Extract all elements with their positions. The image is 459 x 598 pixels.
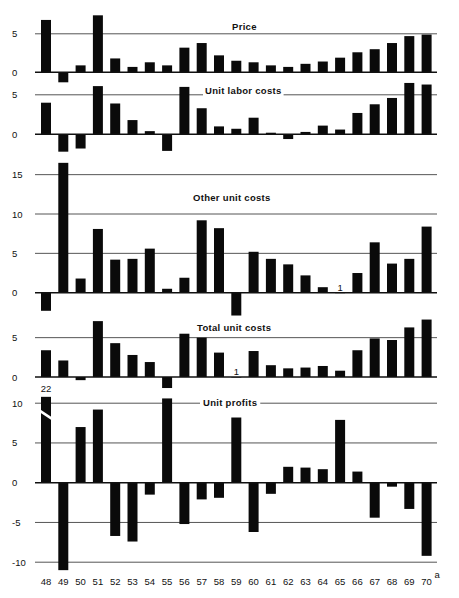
footnote-marker: a xyxy=(435,569,441,580)
unit-labor-costs-panel: 05Unit labor costs xyxy=(12,83,437,152)
other-unit-costs-panel: 0510151Other unit costs xyxy=(12,163,437,316)
x-tick-label: 70 xyxy=(421,576,432,587)
bar xyxy=(128,120,138,134)
bar xyxy=(301,368,311,377)
bar xyxy=(162,398,172,482)
bar xyxy=(404,83,414,134)
bar xyxy=(41,293,51,311)
bar xyxy=(58,72,68,82)
bar xyxy=(76,65,86,72)
bar xyxy=(41,397,51,483)
bar xyxy=(145,62,155,72)
bar xyxy=(422,35,432,73)
bar-annotation: 1 xyxy=(234,366,239,377)
y-tick-label: 0 xyxy=(12,372,17,383)
bar xyxy=(301,468,311,483)
x-tick-label: 52 xyxy=(110,576,121,587)
bar xyxy=(318,366,328,377)
bar xyxy=(266,65,276,72)
bar xyxy=(197,43,207,72)
bar xyxy=(145,483,155,495)
bar xyxy=(318,287,328,293)
bar xyxy=(162,134,172,151)
y-tick-label: 0 xyxy=(12,67,17,78)
bar xyxy=(179,48,189,73)
bar xyxy=(214,228,224,293)
bar xyxy=(197,483,207,500)
bar xyxy=(370,338,380,377)
bar xyxy=(93,86,103,134)
bar xyxy=(76,134,86,148)
bar xyxy=(352,472,362,483)
bar xyxy=(249,252,259,293)
bar xyxy=(179,87,189,134)
bar xyxy=(110,58,120,72)
x-tick-label: 51 xyxy=(93,576,104,587)
bar xyxy=(370,49,380,72)
bar xyxy=(352,52,362,72)
bar xyxy=(197,108,207,134)
bar xyxy=(318,126,328,135)
bar xyxy=(266,483,276,494)
bar xyxy=(128,67,138,72)
bar xyxy=(422,320,432,377)
bar xyxy=(179,334,189,377)
x-tick-label: 49 xyxy=(58,576,69,587)
y-tick-label: 5 xyxy=(12,437,17,448)
x-tick-label: 55 xyxy=(162,576,173,587)
bar xyxy=(370,104,380,134)
bar xyxy=(162,377,172,388)
x-tick-label: 59 xyxy=(231,576,242,587)
bar xyxy=(422,483,432,556)
bar xyxy=(58,483,68,570)
y-tick-label: -10 xyxy=(12,557,26,568)
bar xyxy=(266,365,276,377)
bar xyxy=(249,118,259,135)
bar xyxy=(110,343,120,377)
y-tick-label: 0 xyxy=(12,287,17,298)
x-tick-label: 50 xyxy=(75,576,86,587)
bar xyxy=(249,483,259,532)
bar xyxy=(404,327,414,377)
x-tick-label: 48 xyxy=(41,576,52,587)
bar-annotation: 22 xyxy=(41,383,52,394)
bar xyxy=(110,260,120,293)
x-tick-label: 56 xyxy=(179,576,190,587)
bar xyxy=(283,467,293,483)
y-tick-label: 5 xyxy=(12,248,17,259)
x-tick-label: 58 xyxy=(214,576,225,587)
bar xyxy=(335,58,345,73)
bar xyxy=(128,355,138,377)
x-tick-label: 68 xyxy=(387,576,398,587)
bar xyxy=(301,64,311,72)
bar xyxy=(404,483,414,509)
bar xyxy=(231,61,241,73)
bar xyxy=(214,126,224,134)
bar xyxy=(266,259,276,293)
bar xyxy=(249,62,259,72)
bar xyxy=(404,36,414,72)
x-axis: 4849505152535455565758596061626364656667… xyxy=(41,569,441,587)
bar xyxy=(110,103,120,134)
panel-title: Unit profits xyxy=(203,397,257,408)
x-tick-label: 61 xyxy=(266,576,277,587)
y-tick-label: 0 xyxy=(12,129,17,140)
bar xyxy=(387,340,397,377)
bar xyxy=(301,275,311,292)
bar xyxy=(110,483,120,536)
panel-title: Unit labor costs xyxy=(205,85,282,96)
bar xyxy=(76,427,86,483)
unit-profits-panel: -10-5051022Unit profits xyxy=(12,383,437,570)
bar xyxy=(41,20,51,72)
bar xyxy=(283,368,293,377)
x-tick-label: 65 xyxy=(335,576,346,587)
bar xyxy=(145,362,155,377)
bar xyxy=(93,410,103,483)
x-tick-label: 63 xyxy=(300,576,311,587)
bar xyxy=(283,264,293,292)
panel-title: Other unit costs xyxy=(193,192,271,203)
bar xyxy=(58,163,68,293)
bar xyxy=(214,353,224,377)
bar xyxy=(231,293,241,316)
bar xyxy=(231,418,241,483)
